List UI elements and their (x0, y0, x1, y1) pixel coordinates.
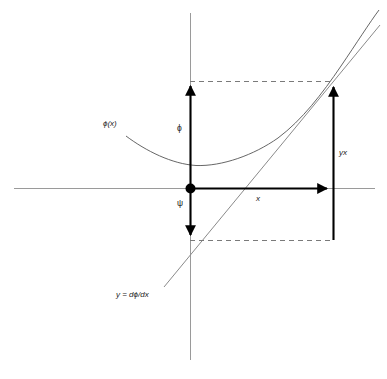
vectors-group (190, 86, 334, 240)
psi-segment-label: ψ (177, 199, 183, 208)
phi-curve-group (126, 10, 379, 166)
yx-segment-label: yx (339, 149, 347, 157)
phi-function-label: ϕ(x) (103, 120, 117, 128)
phi-segment-label: ϕ (177, 124, 182, 133)
figure-canvas: ϕ(x) ϕ ψ yx x y = dϕ/dx (0, 0, 387, 379)
diagram-svg (0, 0, 387, 379)
phi-curve (126, 10, 379, 166)
dashed-guides-group (190, 82, 334, 241)
x-segment-label: x (256, 195, 260, 203)
derivative-line-label: y = dϕ/dx (116, 291, 149, 299)
origin-dot (186, 184, 196, 194)
derivative-line-group (164, 25, 380, 287)
derivative-line (164, 25, 380, 287)
caption-strip (0, 370, 387, 379)
